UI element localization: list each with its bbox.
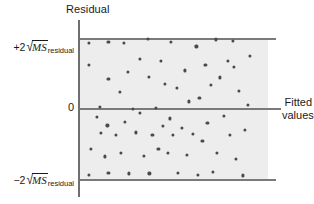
upper-limit-radicand: MS <box>32 40 48 53</box>
upper-limit-radical: √MS <box>25 40 47 54</box>
upper-limit-line <box>79 38 276 40</box>
fitted-values-label-line1: Fitted <box>282 96 312 109</box>
fitted-values-label-line2: values <box>282 109 312 122</box>
lower-limit-label: −2√MSresidual <box>4 173 74 187</box>
residual-band-region <box>79 40 268 180</box>
upper-limit-subscript: residual <box>48 46 74 55</box>
lower-limit-sign: −2 <box>13 174 25 186</box>
residual-axis-title: Residual <box>66 3 110 15</box>
lower-limit-radical: √MS <box>25 173 47 187</box>
residual-axis-line <box>78 20 80 197</box>
fitted-values-axis-label: Fitted values <box>282 96 312 121</box>
residual-plot-figure: Residual 0 Fitted values +2√MSresidual −… <box>0 0 314 204</box>
lower-limit-line <box>79 179 276 181</box>
upper-limit-label: +2√MSresidual <box>4 40 74 54</box>
upper-limit-sign: +2 <box>13 41 25 53</box>
lower-limit-subscript: residual <box>48 179 74 188</box>
zero-reference-line <box>79 108 281 110</box>
lower-limit-radicand: MS <box>32 173 48 186</box>
zero-tick-label: 0 <box>62 101 74 113</box>
